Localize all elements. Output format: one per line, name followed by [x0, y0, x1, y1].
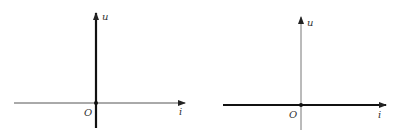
diagram-canvas: u i O u i O [0, 0, 395, 135]
right-u-label: u [307, 17, 313, 28]
right-diagram: u i O [223, 17, 386, 130]
left-origin-label: O [84, 107, 92, 118]
left-origin-dot [94, 101, 98, 105]
left-i-label: i [179, 106, 182, 117]
right-origin-label: O [289, 109, 297, 120]
right-origin-dot [299, 103, 303, 107]
right-i-label: i [378, 109, 381, 120]
left-u-label: u [102, 11, 108, 22]
left-diagram: u i O [14, 11, 185, 128]
